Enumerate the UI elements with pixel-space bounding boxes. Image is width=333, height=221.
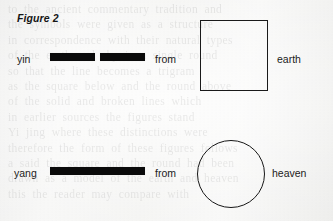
scanned-page: to the ancient commentary tradition and …: [0, 0, 333, 221]
yin-label: yin: [17, 53, 30, 65]
earth-label: earth: [277, 53, 301, 65]
yin-connector-label: from: [155, 53, 176, 65]
heaven-label: heaven: [272, 167, 306, 179]
yin-broken-line-segment-right: [100, 53, 145, 61]
circle-shape-icon: [197, 140, 265, 208]
yin-broken-line-segment-left: [50, 53, 95, 61]
yang-label: yang: [14, 167, 37, 179]
yang-solid-line-segment: [50, 167, 145, 175]
square-shape-icon: [200, 20, 268, 91]
figure-caption: Figure 2: [17, 12, 59, 24]
figure-diagram: Figure 2 yin from earth yang from heaven: [0, 0, 333, 221]
yang-connector-label: from: [155, 167, 176, 179]
